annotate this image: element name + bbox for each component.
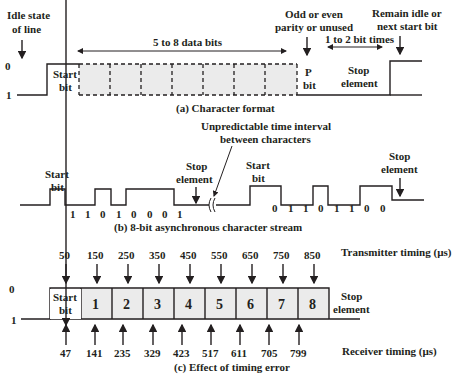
panel-a-character-format: Idle state of line 0 1 Start bit 5 to 8 … — [5, 7, 442, 115]
svg-text:4: 4 — [185, 297, 192, 312]
level-1-c-label: 1 — [11, 314, 17, 326]
svg-text:5: 5 — [216, 297, 223, 312]
receiver-timing-label: Receiver timing (µs) — [342, 345, 437, 358]
stop-c-label-2: element — [333, 303, 370, 315]
svg-text:450: 450 — [180, 249, 197, 261]
svg-text:1: 1 — [334, 202, 340, 214]
remain-idle-label: Remain idle or — [372, 7, 442, 19]
interval-label: Unpredictable time interval — [201, 120, 331, 132]
svg-text:1: 1 — [303, 202, 309, 214]
stop-b2-label-2: element — [381, 163, 418, 175]
svg-text:799: 799 — [290, 347, 307, 359]
stop-b-label-2: element — [176, 173, 213, 185]
panel-c-caption: (c) Effect of timing error — [174, 361, 290, 374]
idle-state-label-2: of line — [12, 23, 41, 35]
svg-text:0: 0 — [131, 208, 137, 220]
stop-label: Stop — [348, 64, 369, 76]
svg-text:250: 250 — [118, 249, 135, 261]
svg-text:1: 1 — [85, 208, 91, 220]
svg-text:550: 550 — [211, 249, 228, 261]
char1-bits: 1 1 0 1 0 0 0 1 — [70, 208, 183, 220]
svg-text:750: 750 — [273, 249, 290, 261]
stop-label-2: element — [341, 77, 378, 89]
svg-text:0: 0 — [272, 202, 278, 214]
receiver-times: 47 141 235 329 423 517 611 705 799 — [60, 347, 307, 359]
svg-text:423: 423 — [173, 347, 190, 359]
panel-c-timing-error: 0 1 Start bit 1 2 3 4 5 6 7 8 Stop eleme… — [9, 0, 452, 374]
p-bit-label-2: bit — [303, 79, 316, 91]
start-bit-b-label-2: bit — [51, 181, 64, 193]
svg-text:705: 705 — [261, 347, 278, 359]
transmitter-arrows — [66, 264, 314, 283]
svg-text:0: 0 — [318, 202, 324, 214]
svg-text:6: 6 — [247, 297, 254, 312]
svg-text:50: 50 — [59, 249, 71, 261]
svg-text:1: 1 — [349, 202, 355, 214]
svg-text:0: 0 — [380, 202, 386, 214]
start-bit-b2-label-2: bit — [252, 172, 265, 184]
stop-b-label: Stop — [186, 160, 207, 172]
svg-text:350: 350 — [149, 249, 166, 261]
svg-text:47: 47 — [60, 347, 72, 359]
svg-text:235: 235 — [114, 347, 131, 359]
break-icon — [209, 198, 211, 212]
svg-text:850: 850 — [304, 249, 321, 261]
level-0-label: 0 — [5, 60, 11, 72]
svg-text:0: 0 — [147, 208, 153, 220]
panel-b-character-stream: Start bit Stop element Unpredictable tim… — [20, 120, 424, 234]
char1-waveform — [20, 189, 209, 205]
parity-label-2: parity or unused — [275, 21, 353, 33]
transmitter-times: 50 150 250 350 450 550 650 750 850 — [59, 249, 321, 261]
svg-text:150: 150 — [87, 249, 104, 261]
svg-text:329: 329 — [144, 347, 161, 359]
svg-text:1: 1 — [70, 208, 76, 220]
svg-text:1: 1 — [116, 208, 122, 220]
p-bit-label: P — [305, 66, 312, 78]
level-1-label: 1 — [6, 89, 12, 101]
panel-b-caption: (b) 8-bit asynchronous character stream — [114, 221, 302, 234]
stop-times-label: 1 to 2 bit times — [325, 33, 395, 45]
svg-text:1: 1 — [288, 202, 294, 214]
svg-text:1: 1 — [92, 297, 99, 312]
idle-state-label: Idle state — [7, 9, 50, 21]
stop-c-label: Stop — [341, 290, 362, 302]
char2-bits: 0 1 1 0 1 1 0 0 — [272, 202, 386, 214]
panel-a-caption: (a) Character format — [176, 102, 275, 115]
level-0-c-label: 0 — [9, 283, 15, 295]
svg-text:0: 0 — [100, 208, 106, 220]
svg-text:8: 8 — [309, 297, 316, 312]
interval-label-2: between characters — [220, 133, 311, 145]
svg-text:3: 3 — [154, 297, 161, 312]
svg-text:141: 141 — [86, 347, 103, 359]
start-bit-b2-label: Start — [246, 159, 270, 171]
parity-label: Odd or even — [285, 8, 343, 20]
start-bit-c-label: Start — [53, 291, 77, 303]
data-bits-label: 5 to 8 data bits — [153, 36, 223, 48]
svg-text:0: 0 — [364, 202, 370, 214]
remain-idle-label-2: next start bit — [377, 20, 438, 32]
svg-text:611: 611 — [231, 347, 247, 359]
stop-b2-label: Stop — [389, 150, 410, 162]
svg-text:1: 1 — [177, 208, 183, 220]
svg-text:7: 7 — [278, 297, 285, 312]
svg-text:650: 650 — [242, 249, 259, 261]
start-bit-label: Start — [53, 68, 77, 80]
svg-text:0: 0 — [162, 208, 168, 220]
async-transmission-diagram: Idle state of line 0 1 Start bit 5 to 8 … — [0, 0, 459, 386]
interval-pointer-icon — [214, 146, 232, 196]
svg-text:2: 2 — [123, 297, 130, 312]
transmitter-timing-label: Transmitter timing (µs) — [341, 246, 452, 259]
svg-text:517: 517 — [202, 347, 219, 359]
